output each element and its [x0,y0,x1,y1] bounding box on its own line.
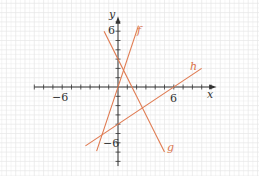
x-axis-label: x [207,88,214,101]
y-tick-label-neg6: −6 [103,137,119,150]
y-axis-label: y [108,8,116,21]
line-label-g: g [167,141,174,154]
line-label-h: h [190,60,197,73]
grid [0,0,259,176]
line-h [85,68,201,146]
y-tick-label-6: 6 [108,24,115,37]
line-label-f: f [136,24,143,37]
lines [85,26,201,152]
graph: x y −6 6 6 −6 f g h [0,0,259,176]
x-tick-label-neg6: −6 [52,91,68,104]
x-tick-label-6: 6 [170,92,177,105]
